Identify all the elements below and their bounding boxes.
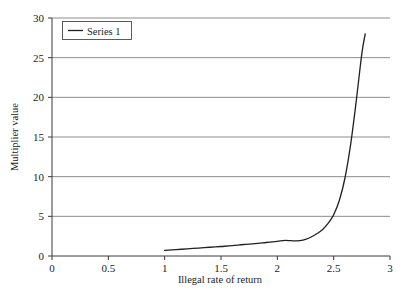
y-tick-label-0: 0 — [39, 250, 45, 262]
x-tick-label-2: 2 — [275, 262, 281, 274]
x-tick-label-2.5: 2.5 — [327, 262, 341, 274]
line-chart: 051015202530 00.511.522.53 Series 1 Ille… — [0, 0, 408, 299]
legend-label-series-1: Series 1 — [87, 26, 121, 37]
y-axis-ticks — [48, 18, 52, 256]
x-tick-label-0.5: 0.5 — [101, 262, 115, 274]
y-tick-label-15: 15 — [33, 131, 45, 143]
x-axis-ticks — [52, 256, 390, 260]
y-tick-label-10: 10 — [33, 171, 45, 183]
x-axis-title: Illegal rate of return — [178, 274, 263, 285]
x-tick-label-0: 0 — [49, 262, 55, 274]
x-tick-label-3: 3 — [387, 262, 393, 274]
y-tick-label-25: 25 — [33, 52, 45, 64]
y-tick-label-20: 20 — [33, 91, 45, 103]
y-axis-title: Multiplier value — [9, 103, 20, 171]
chart-page: 051015202530 00.511.522.53 Series 1 Ille… — [0, 0, 408, 299]
x-tick-label-1: 1 — [162, 262, 168, 274]
x-axis-tick-labels: 00.511.522.53 — [49, 262, 393, 274]
y-tick-label-5: 5 — [39, 210, 45, 222]
legend[interactable]: Series 1 — [63, 22, 132, 40]
x-tick-label-1.5: 1.5 — [214, 262, 228, 274]
y-axis-tick-labels: 051015202530 — [33, 12, 45, 262]
y-tick-label-30: 30 — [33, 12, 45, 24]
